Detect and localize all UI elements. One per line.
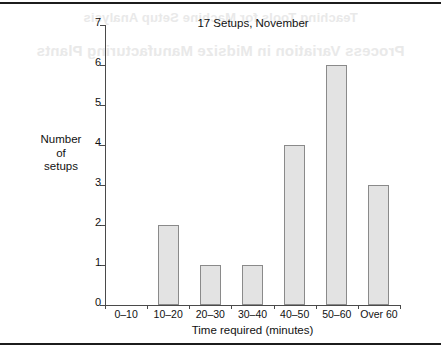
bar	[158, 225, 179, 305]
y-axis-title: Number of setups	[30, 133, 92, 174]
x-axis-title: Time required (minutes)	[105, 324, 400, 336]
x-axis-tick-label: 20–30	[196, 308, 225, 320]
y-axis-tick-label: 0	[95, 297, 101, 308]
y-axis-tick-label: 5	[95, 97, 101, 108]
bar	[368, 185, 389, 305]
x-axis-tick-label: Over 60	[360, 308, 397, 320]
y-axis-title-line-3: setups	[30, 160, 92, 174]
plot-area: 01234567	[105, 25, 400, 305]
y-axis-title-line-1: Number	[30, 133, 92, 147]
x-axis-tick-label: 30–40	[238, 308, 267, 320]
y-axis-tick-label: 6	[95, 57, 101, 68]
y-axis-title-line-2: of	[30, 147, 92, 161]
x-axis-line	[105, 305, 400, 306]
y-axis-tick-label: 4	[95, 137, 101, 148]
bar	[242, 265, 263, 305]
bar-series	[105, 25, 400, 305]
bar	[284, 145, 305, 305]
x-axis-tick-label: 40–50	[280, 308, 309, 320]
x-axis-tick-label: 10–20	[154, 308, 183, 320]
histogram-figure: 17 Setups, November Number of setups 012…	[0, 5, 441, 341]
page-rule-top	[0, 2, 441, 4]
page-rule-bottom	[0, 343, 441, 345]
x-axis-tick-mark	[400, 305, 401, 309]
y-axis-tick-label: 3	[95, 177, 101, 188]
x-axis-tick-label: 0–10	[114, 308, 137, 320]
x-axis-tick-label: 50–60	[322, 308, 351, 320]
bar	[200, 265, 221, 305]
y-axis-tick-label: 1	[95, 257, 101, 268]
bar	[326, 65, 347, 305]
y-axis-tick-label: 2	[95, 217, 101, 228]
y-axis-tick-label: 7	[95, 17, 101, 28]
x-axis-tick-labels: 0–1010–2020–3030–4040–5050–60Over 60	[105, 308, 400, 322]
